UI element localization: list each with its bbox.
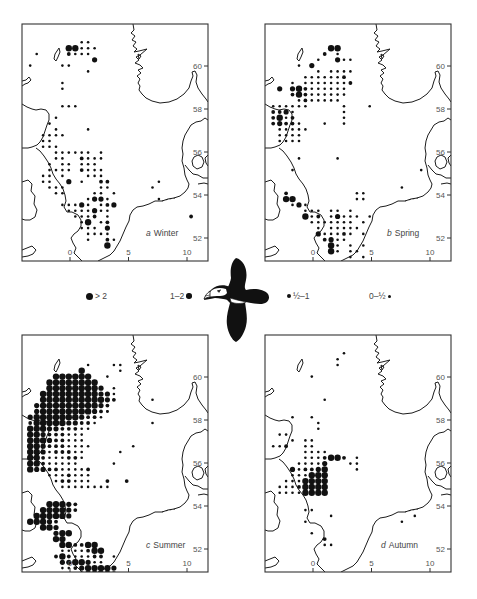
sighting-dot: [42, 140, 45, 143]
sighting-dot: [334, 45, 340, 51]
sighting-dots: [27, 364, 160, 599]
sighting-dot: [80, 47, 83, 50]
sighting-dot: [40, 414, 46, 420]
sighting-dot: [304, 204, 307, 207]
sighting-dot: [285, 140, 288, 143]
sighting-dot: [322, 484, 328, 490]
sighting-dot: [74, 204, 77, 207]
sighting-dot: [113, 555, 116, 558]
sighting-dot: [68, 573, 71, 576]
sighting-dot: [54, 444, 58, 448]
sighting-dot: [93, 192, 96, 195]
sighting-dot: [98, 386, 103, 391]
sighting-dot: [278, 105, 281, 108]
sighting-dot: [158, 198, 161, 201]
sighting-dot: [59, 507, 65, 513]
sighting-dot: [79, 379, 85, 385]
sighting-dot: [27, 455, 33, 461]
sighting-dot: [87, 364, 90, 367]
sighting-dot: [87, 53, 90, 56]
sighting-dot: [34, 431, 40, 437]
sighting-dot: [85, 391, 91, 397]
sighting-dot: [298, 462, 301, 465]
legend-label: ½–1: [293, 291, 310, 301]
latitude-tick-label: 58: [436, 105, 445, 114]
sighting-dot: [420, 169, 423, 172]
sighting-dot: [349, 70, 352, 73]
sighting-dot: [79, 582, 85, 588]
sighting-dot: [309, 63, 314, 68]
sighting-dot: [85, 565, 91, 571]
sighting-dot: [91, 594, 97, 599]
sighting-dot: [73, 566, 77, 570]
sighting-dot: [349, 227, 352, 230]
sighting-dot: [104, 577, 110, 583]
sighting-dot: [55, 186, 58, 189]
sighting-dot: [278, 486, 281, 489]
sighting-dot: [329, 237, 334, 242]
latitude-tick-label: 56: [193, 459, 202, 468]
sighting-dot: [311, 445, 314, 448]
sighting-dot: [46, 408, 52, 414]
sighting-dot: [336, 250, 339, 253]
sighting-dot: [87, 175, 90, 178]
sighting-dot: [73, 420, 78, 425]
sighting-dot: [104, 582, 110, 588]
sighting-dot: [315, 484, 321, 490]
sighting-dot: [328, 242, 334, 248]
sighting-dot: [93, 486, 96, 489]
sighting-dot: [48, 146, 51, 149]
sighting-dot: [323, 451, 326, 454]
sighting-dot: [48, 433, 52, 437]
sighting-dot: [285, 486, 288, 489]
sighting-dot: [48, 444, 52, 448]
sighting-dot: [298, 122, 301, 125]
sighting-dot: [53, 402, 59, 408]
sighting-dot: [40, 507, 46, 513]
sighting-dot: [111, 202, 116, 207]
sighting-dot: [343, 88, 346, 91]
map-summer: 60585654520510: [22, 335, 208, 572]
sighting-dot: [285, 105, 288, 108]
sighting-dot: [349, 256, 352, 259]
sighting-dot: [59, 553, 65, 559]
sighting-dot: [48, 175, 51, 178]
sighting-dot: [61, 468, 64, 471]
longitude-tick-label: 0: [311, 559, 316, 568]
sighting-dot: [48, 462, 51, 465]
sighting-dot: [73, 456, 77, 460]
sighting-dot: [79, 402, 85, 408]
sighting-dot: [105, 397, 110, 402]
sighting-dot: [298, 480, 301, 483]
longitude-tick-label: 0: [68, 559, 73, 568]
sighting-dot: [285, 134, 288, 137]
longitude-tick-label: 5: [126, 559, 131, 568]
sighting-dot: [54, 439, 58, 443]
sighting-dot: [80, 53, 83, 56]
sighting-dot: [100, 204, 103, 207]
sighting-dot: [66, 542, 72, 548]
sighting-dot: [86, 415, 90, 419]
sighting-dot: [289, 196, 295, 202]
sighting-dot: [79, 408, 85, 414]
sighting-dot: [330, 227, 333, 230]
sighting-dot: [343, 70, 346, 73]
sighting-dot: [73, 427, 77, 431]
sighting-dot: [317, 462, 320, 465]
sighting-dot: [278, 433, 281, 436]
longitude-tick-label: 5: [126, 248, 131, 257]
sighting-dot: [68, 169, 71, 172]
sighting-dot: [27, 449, 33, 455]
sighting-dot: [68, 468, 71, 471]
sighting-dot: [304, 457, 307, 460]
sighting-dot: [349, 209, 352, 212]
sighting-dot: [85, 219, 91, 225]
sighting-dot: [323, 52, 327, 56]
sighting-dot: [336, 76, 339, 79]
sighting-dot: [298, 99, 301, 102]
sighting-dot: [80, 163, 83, 166]
sighting-dot: [106, 238, 110, 242]
sighting-dot: [87, 41, 90, 44]
sighting-dot: [29, 64, 32, 67]
sighting-dot: [342, 75, 346, 79]
